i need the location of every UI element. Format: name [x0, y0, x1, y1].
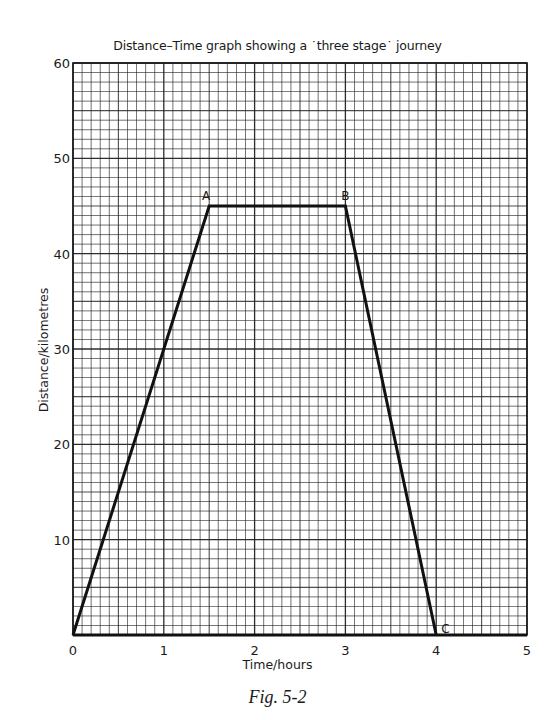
- graph-paper-grid: [73, 63, 527, 635]
- y-tick-label: 60: [53, 56, 70, 71]
- x-tick-label: 0: [69, 643, 77, 658]
- y-tick-label: 40: [53, 247, 70, 262]
- x-tick-label: 2: [250, 643, 258, 658]
- x-axis-label: Time/hours: [0, 657, 555, 672]
- y-tick-label: 10: [53, 533, 70, 548]
- x-tick-label: 5: [523, 643, 531, 658]
- axis-tick-labels: 012345102030405060: [53, 56, 531, 658]
- x-tick-label: 3: [341, 643, 349, 658]
- figure-caption: Fig. 5-2: [0, 687, 555, 708]
- point-labels: ABC: [202, 189, 450, 636]
- x-tick-label: 1: [160, 643, 168, 658]
- point-label-b: B: [341, 189, 349, 203]
- y-tick-label: 30: [53, 342, 70, 357]
- y-tick-label: 50: [53, 151, 70, 166]
- y-tick-label: 20: [53, 437, 70, 452]
- y-axis-label: Distance/kilometres: [36, 288, 51, 413]
- distance-time-plot: 012345102030405060 ABC: [0, 0, 555, 720]
- x-tick-label: 4: [432, 643, 440, 658]
- point-label-a: A: [202, 189, 211, 203]
